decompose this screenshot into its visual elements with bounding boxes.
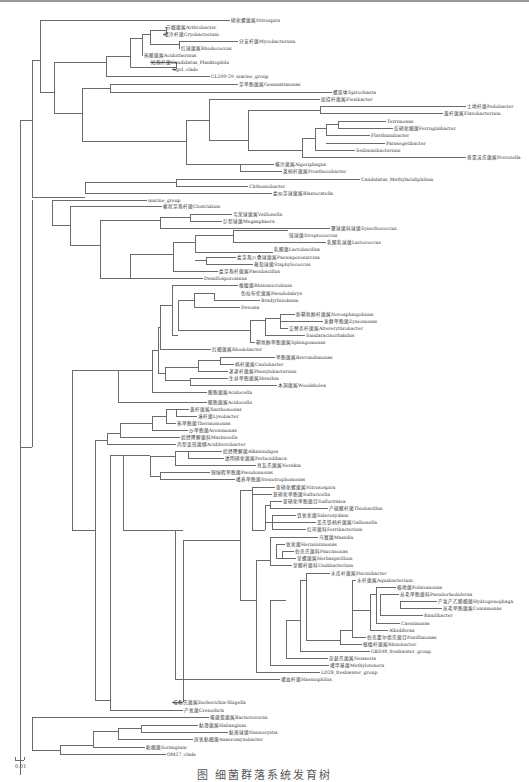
taxon-label: 分支杆菌Mycobacterium xyxy=(239,38,296,45)
taxon-labels: 硝化螺菌属Nitrospira节细菌属Arthrobacter嗜冷杆菌Cryob… xyxy=(144,17,521,758)
taxon-label: Chthoniobacter xyxy=(249,184,286,189)
taxon-label: 节细菌属Arthrobacter xyxy=(166,24,217,31)
taxon-label: 水杆菌属Aquabacterium xyxy=(357,577,413,584)
taxon-label: 沙单胞菌Arenimonas xyxy=(189,427,237,434)
taxon-label: 奈瑟氏菌属Neisseria xyxy=(329,655,376,662)
taxon-label: 溶杆菌Lysobacter xyxy=(198,413,240,420)
taxon-label: 热酸菌属Acidothermus xyxy=(144,52,197,59)
taxon-label: 黏滑菌属Haliangium xyxy=(199,722,247,729)
taxon-label: 茎茎杆菌属Phenylobacterium xyxy=(229,368,297,375)
taxon-label: 铁氧化菌Sideroxydans xyxy=(297,512,349,519)
taxon-label: 酸胞菌属Acidocella xyxy=(208,399,252,406)
taxon-label: 嗜甲基菌Methylotenera xyxy=(330,662,384,669)
taxon-label: 发酵单胞菌Zymomonas xyxy=(324,318,378,325)
taxon-label: 屈挠杆菌属Flexibacter xyxy=(321,96,373,103)
taxon-label: 红细菌属Rhodobacter xyxy=(212,346,263,353)
taxon-label: CL500-29_marine_group xyxy=(211,74,269,80)
taxon-label: 嗜血杆菌Haemophilus xyxy=(281,676,332,683)
figure-caption: 图 细菌群落系统发育树 xyxy=(0,766,529,782)
taxon-label: 新鞘氨醇杆菌属Novosphingobium xyxy=(296,311,374,318)
taxon-label: 反硝化细菌Ferruginibacter xyxy=(394,125,457,132)
taxon-label: 螺旋体Spirochaeta xyxy=(333,89,376,96)
taxon-label: 根瘤菌Rhizomicrobium xyxy=(239,282,293,289)
taxon-label: 单胞菌属Brevundimonas xyxy=(276,354,333,361)
taxon-label: 短孢杆菌Candidatus_Planktophila xyxy=(151,59,229,66)
taxon-label: 鞘氨醇单胞菌属Sphingomonas xyxy=(256,339,326,346)
taxon-label: 氧化菌Herminiimonas xyxy=(286,541,337,548)
taxon-label: 热单胞菌Thermomonas xyxy=(177,420,231,427)
taxon-label: 荚柄杆菌属Prosthecobacter xyxy=(283,168,347,175)
taxon-label: Devosia xyxy=(241,305,260,310)
taxon-label: 伯克霍尔德氏菌目Pusillimonas xyxy=(367,634,437,641)
taxon-label: 红环菌科Ferribacterium xyxy=(307,526,363,533)
taxon-label: 丙型变形菌纲Acidiferrobacter xyxy=(177,441,246,448)
taxon-label: 极地菌Polaromonas xyxy=(397,584,443,591)
taxon-label: 产氧菌Crenothrix xyxy=(184,707,225,714)
taxon-label: 酸胞菌属Acidocella xyxy=(208,389,252,396)
taxon-label: 类芽孢杆菌属Paenibacillus xyxy=(219,268,280,275)
taxon-label: 厌氧粘细菌Anaeromyxobacter xyxy=(194,736,264,743)
taxon-label: Parasegetibacter xyxy=(386,141,426,147)
taxon-label: 芽单胞菌属Gemmatimonas xyxy=(239,81,301,88)
taxon-label: Albidiferax xyxy=(388,628,415,633)
taxon-label: 硝化螺菌属Nitrospira xyxy=(231,17,280,24)
taxon-label: 透明硝化菌属Perlucidibaca xyxy=(225,455,287,462)
taxon-label: 埃希氏菌属Escherichia-Shigella xyxy=(173,699,246,706)
taxon-label: 普雷沃氏菌属Prevotella xyxy=(467,154,521,161)
taxon-label: 伪拉布伦菌属Pseudolabrys xyxy=(241,290,303,297)
taxon-label: 丛毛单胞菌属Comamonas xyxy=(443,605,502,612)
taxon-label: 巨型球菌Megasphaera xyxy=(223,218,275,225)
taxon-label: OM27_clade xyxy=(167,752,196,758)
taxon-label: Caenimonas xyxy=(401,621,430,626)
taxon-label: Sediminibacterium xyxy=(356,148,401,153)
taxon-label: 红球菌属Rhodococcus xyxy=(181,45,232,52)
taxon-label: Ramlibacter xyxy=(424,613,453,618)
taxon-label: 乳酸菌Lactobacillus xyxy=(274,246,321,253)
taxon-label: GKS98_freshwater_group xyxy=(371,649,431,655)
taxon-label: 烷烃降解菌科Marinicella xyxy=(181,434,238,441)
taxon-label: 粘细菌Sorangium xyxy=(146,744,187,751)
taxon-label: 链球菌Streptococcus xyxy=(289,232,338,239)
taxon-label: LD28_freshwater_group xyxy=(321,670,377,676)
taxon-label: 草螺菌属Herbaspirillum xyxy=(297,555,353,562)
taxon-label: 类似芽球菌属Blastocatella xyxy=(273,190,333,197)
taxon-label: 土地杆菌Pedobacter xyxy=(467,103,514,110)
taxon-label: 烷烃降解菌Alkanindiges xyxy=(223,448,279,455)
taxon-label: 黄杆菌属Flavobacterium xyxy=(444,110,501,117)
taxon-label: 肖瓦氏菌属Nevskia xyxy=(257,462,301,469)
taxon-label: 伯克氏菌科Paucimonas xyxy=(295,548,348,555)
taxon-label: 噬冷菌属Algoriphagus xyxy=(275,161,327,168)
taxon-label: 草酸杆菌科Undibacterium xyxy=(293,562,354,569)
taxon-label: 噬菌弧菌属Bacteriovorax xyxy=(210,714,268,721)
taxon-label: 亚硝化单胞菌Sulfuricella xyxy=(273,491,330,498)
taxon-label: 丛毛单胞菌科Pseudorhodoferax xyxy=(400,591,473,598)
taxon-label: 聚球菌科球菌Synechococcus xyxy=(331,225,397,232)
taxon-label: Bradyrhizobium xyxy=(261,298,299,304)
taxon-label: Flavihumibacter xyxy=(371,133,410,138)
taxon-label: Terrimonas xyxy=(387,119,414,124)
taxon-label: 韦荣球菌属Veillonella xyxy=(233,211,282,218)
taxon-label: 马赛菌Massilia xyxy=(319,534,354,541)
taxon-label: 铜绿假单胞菌Pseudomonas xyxy=(211,469,274,476)
taxon-label: 水库杆菌属Piscinibacter xyxy=(331,570,387,577)
taxon-label: 类芽孢八叠球菌属Paenisporosarcina xyxy=(237,254,320,261)
taxon-label: 交替赤杆菌属Altererythrobacter xyxy=(289,325,364,332)
taxon-label: 嗜养单胞菌Stenotrophomonas xyxy=(236,476,306,483)
taxon-label: 嗜冷杆菌Cryobacterium xyxy=(164,31,220,38)
taxon-label: 木洞菌属Woodsholea xyxy=(278,382,326,389)
taxon-label: 黄杆菌属Xanthomonas xyxy=(190,406,242,413)
taxon-label: 产氢产乙酸细菌Hydrogenophaga xyxy=(438,598,513,605)
taxon-label: 生丝单胞菌属Hirschia xyxy=(229,375,279,382)
taxon-label: Sandaracinorhabdus xyxy=(306,333,355,338)
taxon-label: Desulfosporosinus xyxy=(204,276,247,281)
taxon-label: 葡萄球菌Staphylococcus xyxy=(254,261,311,268)
taxon-label: 柄杆菌属Caulobacter xyxy=(235,361,284,368)
taxon-label: 产硫酸杆菌Thiobacillus xyxy=(329,505,383,512)
taxon-label: 亚硝化螺菌属Nitrosospira xyxy=(276,484,335,491)
taxon-label: hgcI_clade xyxy=(173,67,198,73)
taxon-label: 亚硝化单胞菌目Sulfuritalea xyxy=(283,498,346,505)
taxon-label: 根瘤杆菌属Rhizobacter xyxy=(363,641,417,648)
taxon-label: 梭状芽孢杆菌Clostridium xyxy=(163,203,221,210)
taxon-label: 黏液球菌Nannocystis xyxy=(229,729,278,736)
